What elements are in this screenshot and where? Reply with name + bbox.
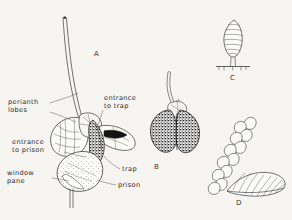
panel-a-pedicel [63, 18, 86, 128]
label-entrance-to-trap-line2: to trap [104, 102, 129, 110]
leader-trap [104, 156, 120, 169]
illustration-canvas [0, 0, 292, 220]
label-window-pane: window pane [7, 170, 34, 185]
panel-d-ribbed-scale [227, 172, 285, 196]
pedicel-tip [63, 16, 66, 18]
label-trap: trap [122, 166, 137, 174]
label-window-pane-line2: pane [7, 177, 25, 185]
panel-letter-c: C [230, 74, 235, 82]
label-entrance-to-trap: entrance to trap [104, 95, 136, 110]
leader-perianth-a [50, 93, 78, 103]
panel-c-gland [216, 20, 250, 71]
panel-letter-b: B [154, 163, 159, 171]
leader-prison [97, 180, 116, 185]
label-prison: prison [118, 182, 140, 190]
prison-base-stalk [70, 189, 73, 208]
label-entrance-to-prison-line2: to prison [12, 146, 44, 154]
label-entrance-to-prison: entrance to prison [12, 139, 44, 154]
label-perianth-lobes-line2: lobes [8, 106, 27, 114]
panel-b-specimen [150, 72, 199, 153]
botanical-figure-plate: perianth lobes entrance to trap entrance… [0, 0, 292, 220]
panel-letter-a: A [94, 50, 99, 58]
panel-letter-d: D [236, 199, 242, 207]
label-perianth-lobes: perianth lobes [8, 99, 39, 114]
prison-chamber [57, 151, 103, 191]
